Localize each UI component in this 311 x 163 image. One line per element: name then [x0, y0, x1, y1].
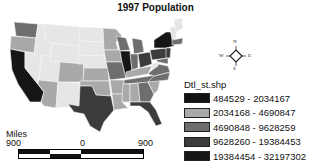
state-mississippi [122, 84, 130, 102]
state-north-dakota [79, 27, 104, 42]
state-washington [14, 22, 38, 38]
state-south-dakota [78, 41, 104, 56]
state-wyoming [50, 43, 79, 64]
legend: Dtl_st.shp 484529 - 2034167 2034168 - 46… [184, 79, 311, 163]
scale-bar: Miles 900 0 900 [6, 129, 156, 159]
state-maine [174, 18, 183, 32]
legend-label: 484529 - 2034167 [213, 93, 290, 104]
compass-north-label: N [233, 39, 237, 44]
legend-swatch [184, 151, 210, 161]
compass-east-label: E [248, 53, 251, 58]
legend-title: Dtl_st.shp [184, 79, 311, 90]
state-wisconsin [116, 36, 130, 51]
legend-item: 9628260 - 19384453 [184, 135, 311, 150]
state-kansas [83, 68, 109, 81]
legend-item: 19384454 - 32197302 [184, 149, 311, 163]
legend-label: 4690848 - 9628259 [213, 122, 295, 133]
legend-item: 2034168 - 4690847 [184, 106, 311, 121]
legend-swatch [184, 93, 210, 103]
compass-west-label: W [219, 53, 224, 58]
state-colorado [58, 62, 84, 82]
legend-label: 2034168 - 4690847 [213, 107, 295, 118]
state-iowa [104, 50, 122, 62]
compass-south-label: S [233, 66, 236, 71]
us-states-map [8, 18, 183, 133]
scale-tick-left: 900 [6, 138, 21, 148]
compass-rose: N S W E [218, 40, 254, 72]
state-florida [130, 102, 162, 126]
legend-item: 484529 - 2034167 [184, 91, 311, 106]
legend-swatch [184, 137, 210, 147]
state-michigan [132, 38, 144, 54]
legend-label: 9628260 - 19384453 [213, 136, 301, 147]
state-arkansas [110, 80, 124, 94]
legend-item: 4690848 - 9628259 [184, 120, 311, 135]
scale-bar-graphic [18, 149, 144, 159]
state-new-jersey [166, 48, 171, 58]
state-ohio [138, 52, 152, 68]
scale-tick-center: 0 [80, 138, 85, 148]
legend-swatch [184, 108, 210, 118]
legend-swatch [184, 122, 210, 132]
map-title: 1997 Population [0, 2, 311, 13]
scale-tick-right: 900 [138, 138, 153, 148]
legend-label: 19384454 - 32197302 [213, 151, 306, 162]
